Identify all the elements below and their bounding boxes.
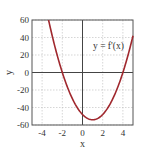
y-tick-label: -60 (17, 120, 29, 130)
x-tick-label: 0 (80, 128, 85, 138)
x-tick-label: -4 (38, 128, 46, 138)
y-tick-label: -20 (17, 85, 29, 95)
chart: -60-40-200204060 -4-2024 x y y = f'(x) (0, 0, 143, 152)
y-tick-label: -40 (17, 103, 29, 113)
y-tick-labels: -60-40-200204060 (17, 15, 30, 130)
x-axis-label: x (80, 138, 85, 149)
x-tick-label: 4 (121, 128, 126, 138)
x-tick-label: 2 (100, 128, 105, 138)
derivative-curve (49, 20, 133, 120)
x-tick-label: -2 (59, 128, 67, 138)
y-tick-label: 60 (20, 15, 30, 25)
zero-axes (32, 20, 133, 125)
y-tick-label: 20 (20, 50, 30, 60)
y-tick-label: 0 (25, 68, 30, 78)
y-tick-label: 40 (20, 33, 30, 43)
curve-annotation: y = f'(x) (93, 41, 124, 52)
y-axis-label: y (3, 70, 14, 75)
x-tick-labels: -4-2024 (38, 128, 125, 138)
